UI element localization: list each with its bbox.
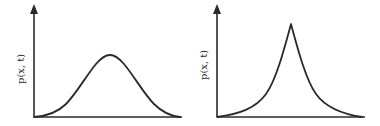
right-y-axis-label: p(x, t) xyxy=(198,50,209,80)
right-chart: p(x, t) xyxy=(198,4,365,117)
left-y-axis-arrow-icon xyxy=(30,4,38,14)
right-curve-cusp xyxy=(217,24,362,117)
left-y-axis-label: p(x, t) xyxy=(15,54,26,84)
right-y-axis-arrow-icon xyxy=(213,4,221,14)
left-chart: p(x, t) xyxy=(15,4,182,117)
figure: p(x, t) p(x, t) xyxy=(0,0,380,126)
left-curve-gaussian xyxy=(34,55,180,117)
